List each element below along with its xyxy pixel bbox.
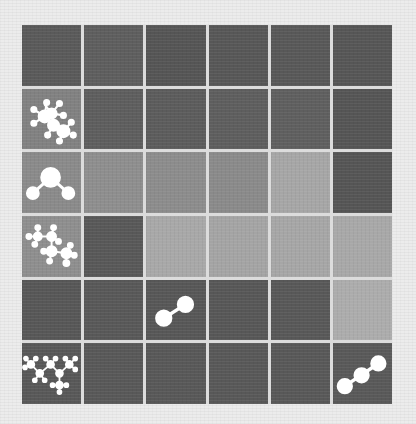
tile-r0-c2[interactable] <box>146 25 205 86</box>
tile-r4-c0[interactable] <box>22 280 81 341</box>
tile-r1-c3[interactable] <box>209 89 268 150</box>
tile-r1-c2[interactable] <box>146 89 205 150</box>
tile-r4-c3[interactable] <box>209 280 268 341</box>
tile-r5-c3[interactable] <box>209 343 268 404</box>
triatomic-chain-molecule-icon <box>333 343 392 404</box>
branched-alkane-molecule-icon <box>22 343 81 404</box>
tile-r3-c1[interactable] <box>84 216 143 277</box>
tile-r5-c5[interactable] <box>333 343 392 404</box>
tile-r1-c5[interactable] <box>333 89 392 150</box>
tile-r2-c0[interactable] <box>22 152 81 213</box>
water-molecule-icon <box>22 152 81 213</box>
tile-r2-c2[interactable] <box>146 152 205 213</box>
tile-r3-c2[interactable] <box>146 216 205 277</box>
game-board <box>22 25 392 404</box>
propane-molecule-icon <box>22 216 81 277</box>
benzene-like-molecule-icon <box>22 89 81 150</box>
tile-r4-c2[interactable] <box>146 280 205 341</box>
tile-r5-c0[interactable] <box>22 343 81 404</box>
tile-r2-c1[interactable] <box>84 152 143 213</box>
tile-r3-c3[interactable] <box>209 216 268 277</box>
tile-r3-c0[interactable] <box>22 216 81 277</box>
tile-r3-c5[interactable] <box>333 216 392 277</box>
tile-r5-c4[interactable] <box>271 343 330 404</box>
tile-r3-c4[interactable] <box>271 216 330 277</box>
diatomic-molecule-icon <box>146 280 205 341</box>
tile-r1-c4[interactable] <box>271 89 330 150</box>
tile-r2-c4[interactable] <box>271 152 330 213</box>
tile-r4-c1[interactable] <box>84 280 143 341</box>
tile-r0-c0[interactable] <box>22 25 81 86</box>
tile-r0-c3[interactable] <box>209 25 268 86</box>
tile-r4-c5[interactable] <box>333 280 392 341</box>
tile-r2-c5[interactable] <box>333 152 392 213</box>
tile-r0-c4[interactable] <box>271 25 330 86</box>
tile-r0-c1[interactable] <box>84 25 143 86</box>
tile-r0-c5[interactable] <box>333 25 392 86</box>
tile-r1-c1[interactable] <box>84 89 143 150</box>
tile-r5-c1[interactable] <box>84 343 143 404</box>
tile-r1-c0[interactable] <box>22 89 81 150</box>
tile-r5-c2[interactable] <box>146 343 205 404</box>
tile-r2-c3[interactable] <box>209 152 268 213</box>
tile-r4-c4[interactable] <box>271 280 330 341</box>
